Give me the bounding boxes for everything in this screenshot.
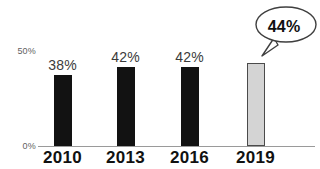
bar-chart: —————————— 50% 0% 38%201042%201342%20162… — [0, 0, 320, 169]
x-axis-label-2013: 2013 — [94, 149, 158, 167]
x-axis-line — [38, 146, 315, 147]
bar-value-label-2010: 38% — [33, 58, 93, 72]
bar-2010 — [54, 75, 72, 146]
bar-value-label-2016: 42% — [160, 50, 220, 64]
bar-value-label-2013: 42% — [96, 50, 156, 64]
bar-2013 — [117, 67, 135, 146]
y-axis-tick-50: 50% — [4, 47, 36, 56]
x-axis-label-2016: 2016 — [158, 149, 222, 167]
x-axis-label-2010: 2010 — [31, 149, 95, 167]
chart-title-cropped: —————————— — [52, 0, 227, 4]
x-axis-label-2019: 2019 — [224, 149, 288, 167]
callout-value: 44% — [252, 19, 316, 35]
callout-bubble: 44% — [252, 4, 320, 62]
bar-2019 — [247, 63, 265, 146]
bar-2016 — [181, 67, 199, 146]
